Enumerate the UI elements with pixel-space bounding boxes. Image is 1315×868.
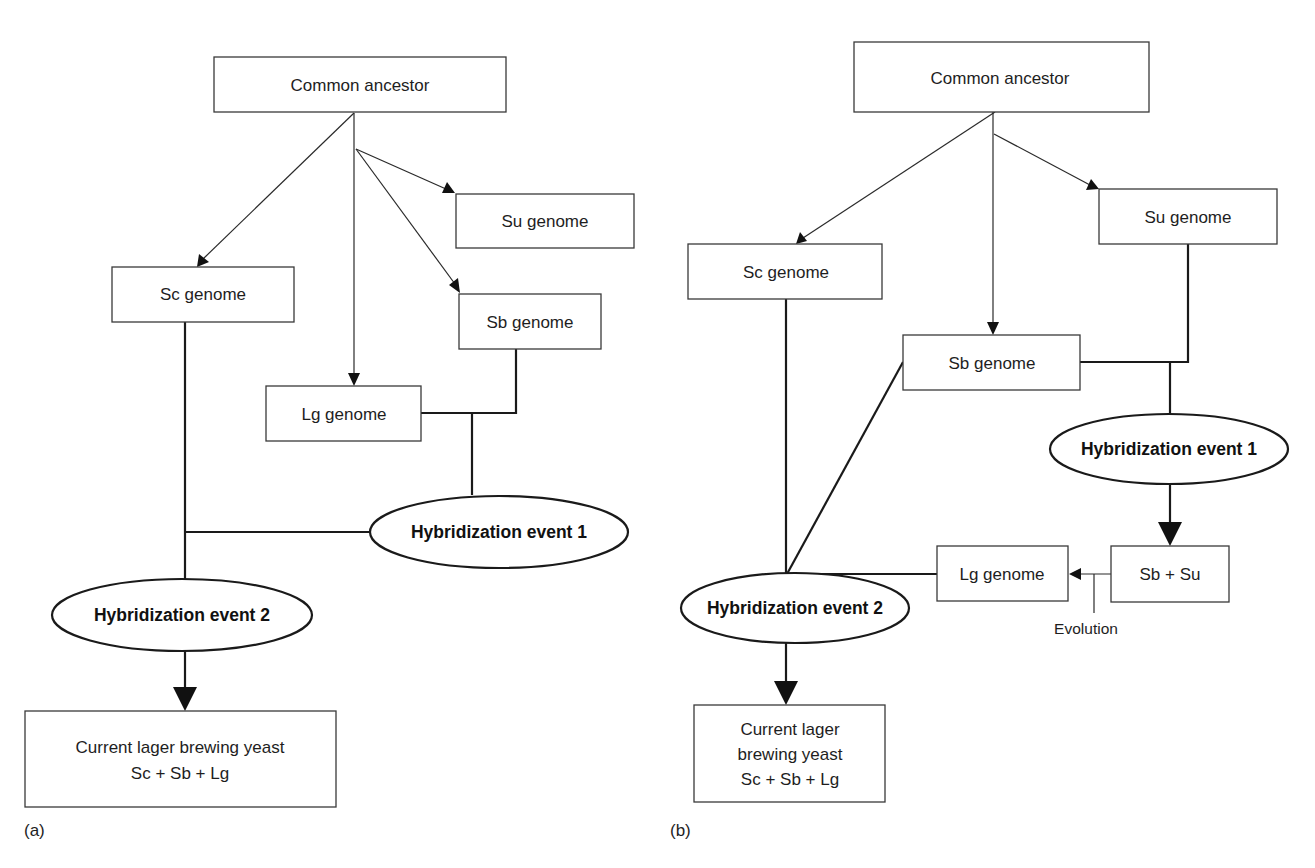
arrowhead-icon <box>987 322 999 335</box>
node-label-line2: brewing yeast <box>738 745 843 764</box>
node-current-lager-yeast: Current lager brewing yeast Sc + Sb + Lg <box>694 705 885 802</box>
node-label: Sc genome <box>743 263 829 282</box>
big-arrowhead-icon <box>173 687 197 711</box>
node-su-genome: Su genome <box>456 194 634 248</box>
edge-ancestor-to-su <box>356 149 446 189</box>
node-label: Lg genome <box>301 405 386 424</box>
edge-ancestor-to-sc <box>803 112 995 238</box>
node-hybridization-event-1: Hybridization event 1 <box>1050 414 1288 484</box>
node-label-line2: Sc + Sb + Lg <box>131 764 229 783</box>
node-sb-genome: Sb genome <box>459 294 601 349</box>
lager-yeast-hybridization-diagram: Common ancestor Su genome Sc genome Sb g… <box>0 0 1315 868</box>
node-label: Common ancestor <box>291 76 430 95</box>
node-label-line1: Current lager brewing yeast <box>76 738 285 757</box>
arrowhead-icon <box>348 373 360 386</box>
node-label: Common ancestor <box>931 69 1070 88</box>
node-sb-genome: Sb genome <box>903 335 1080 390</box>
node-label: Sc genome <box>160 285 246 304</box>
arrowhead-icon <box>796 232 807 244</box>
node-label: Hybridization event 2 <box>94 605 270 625</box>
big-arrowhead-icon <box>774 681 798 705</box>
node-label: Su genome <box>1145 208 1232 227</box>
node-label: Su genome <box>502 212 589 231</box>
panel-a-label: (a) <box>24 821 45 840</box>
node-sc-genome: Sc genome <box>112 267 294 322</box>
arrowhead-icon <box>449 278 460 293</box>
node-label: Sb genome <box>487 313 574 332</box>
node-sc-genome: Sc genome <box>688 244 882 299</box>
edge-sb-su-join <box>1080 244 1188 362</box>
node-sb-su: Sb + Su <box>1111 546 1229 602</box>
edge-sb-to-hyb2 <box>787 362 903 574</box>
node-su-genome: Su genome <box>1099 189 1277 244</box>
panel-a-ancestor-arrows <box>197 113 460 386</box>
node-label: Sb + Su <box>1140 565 1201 584</box>
edge-ancestor-to-su <box>994 134 1090 185</box>
node-common-ancestor: Common ancestor <box>214 57 506 112</box>
node-lg-genome: Lg genome <box>266 386 421 441</box>
node-hybridization-event-2: Hybridization event 2 <box>681 573 909 643</box>
node-label-line1: Current lager <box>740 720 840 739</box>
edge-ancestor-to-sb <box>356 149 455 284</box>
big-arrowhead-icon <box>1158 522 1182 546</box>
node-label: Hybridization event 2 <box>707 598 883 618</box>
edge-lg-sb-join <box>421 349 516 413</box>
panel-b: Common ancestor Su genome Sc genome Sb g… <box>670 42 1288 840</box>
node-label: Hybridization event 1 <box>411 522 587 542</box>
panel-b-ancestor-arrows <box>796 112 1099 335</box>
panel-b-label: (b) <box>670 821 691 840</box>
node-label: Sb genome <box>949 354 1036 373</box>
node-common-ancestor: Common ancestor <box>854 42 1149 112</box>
node-hybridization-event-1: Hybridization event 1 <box>370 496 628 568</box>
arrowhead-icon <box>1069 568 1081 580</box>
panel-a: Common ancestor Su genome Sc genome Sb g… <box>24 57 634 840</box>
evolution-label: Evolution <box>1054 620 1118 637</box>
node-label: Lg genome <box>959 565 1044 584</box>
edge-ancestor-to-sc <box>203 113 354 259</box>
node-current-lager-yeast: Current lager brewing yeast Sc + Sb + Lg <box>25 711 336 807</box>
node-label: Hybridization event 1 <box>1081 439 1257 459</box>
node-lg-genome: Lg genome <box>937 546 1068 601</box>
node-label-line3: Sc + Sb + Lg <box>741 770 839 789</box>
arrowhead-icon <box>197 254 209 267</box>
node-hybridization-event-2: Hybridization event 2 <box>52 579 312 651</box>
